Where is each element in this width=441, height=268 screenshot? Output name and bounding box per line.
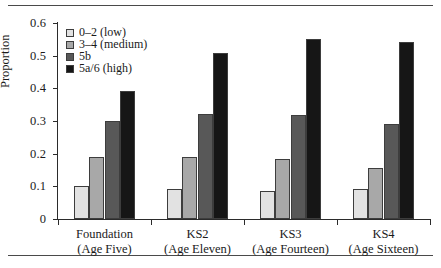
x-tick-mark — [430, 219, 431, 225]
bar[interactable] — [306, 39, 321, 219]
y-tick-label: 0.6 — [0, 16, 46, 31]
y-tick-label: 0.2 — [0, 146, 46, 161]
x-category-label-line: KS3 — [244, 227, 337, 242]
legend-item[interactable]: 5a/6 (high) — [66, 63, 147, 75]
bar[interactable] — [353, 189, 368, 219]
legend-item-label: 5a/6 (high) — [79, 63, 132, 75]
bar[interactable] — [399, 42, 414, 219]
x-category-label-line: (Age Five) — [58, 242, 151, 257]
x-category-label: KS3(Age Fourteen) — [244, 227, 337, 257]
bar[interactable] — [120, 91, 135, 219]
y-tick-label: 0.3 — [0, 114, 46, 129]
bar[interactable] — [182, 157, 197, 219]
x-tick-mark — [337, 219, 338, 225]
bar[interactable] — [291, 115, 306, 219]
bar[interactable] — [74, 186, 89, 219]
bar[interactable] — [89, 157, 104, 219]
bar[interactable] — [368, 168, 383, 219]
legend-swatch-icon — [66, 29, 74, 37]
x-category-label-line: Foundation — [58, 227, 151, 242]
bar-group — [337, 23, 430, 219]
y-tick-label: 0.5 — [0, 48, 46, 63]
legend-swatch-icon — [66, 65, 74, 73]
figure-top-rule — [8, 5, 433, 6]
x-category-label: KS4(Age Sixteen) — [337, 227, 430, 257]
x-category-label-line: (Age Fourteen) — [244, 242, 337, 257]
bar-group — [151, 23, 244, 219]
bar[interactable] — [260, 191, 275, 219]
legend-swatch-icon — [66, 53, 74, 61]
x-category-label-line: (Age Sixteen) — [337, 242, 430, 257]
legend: 0–2 (low)3–4 (medium)5b5a/6 (high) — [66, 27, 147, 75]
bar[interactable] — [213, 53, 228, 219]
x-tick-mark — [151, 219, 152, 225]
x-category-label: Foundation(Age Five) — [58, 227, 151, 257]
figure-container: Proportion 00.10.20.30.40.50.6 Foundatio… — [0, 0, 441, 268]
bar[interactable] — [198, 114, 213, 219]
y-tick-label: 0.4 — [0, 81, 46, 96]
x-category-label: KS2(Age Eleven) — [151, 227, 244, 257]
bar[interactable] — [167, 189, 182, 219]
legend-swatch-icon — [66, 41, 74, 49]
bar[interactable] — [384, 124, 399, 219]
bar-group — [244, 23, 337, 219]
x-category-label-line: (Age Eleven) — [151, 242, 244, 257]
x-category-label-line: KS2 — [151, 227, 244, 242]
y-tick-label: 0 — [0, 212, 46, 227]
x-tick-mark — [244, 219, 245, 225]
x-tick-mark — [58, 219, 59, 225]
bar[interactable] — [105, 121, 120, 219]
x-category-label-line: KS4 — [337, 227, 430, 242]
bar[interactable] — [275, 159, 290, 219]
y-tick-label: 0.1 — [0, 179, 46, 194]
